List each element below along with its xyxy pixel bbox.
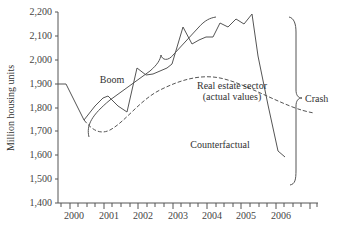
x-tick-label: 2001: [99, 210, 119, 221]
crash-label: Crash: [305, 93, 328, 104]
counterfactual-label: Counterfactual: [190, 139, 250, 150]
chart-canvas: 2,200 2,100 2,000 1,900 1,800 1,700 1,60…: [0, 0, 354, 230]
boom-label: Boom: [100, 74, 125, 85]
crash-brace: [289, 17, 302, 185]
y-tick-label: 1,800: [30, 102, 53, 113]
y-tick-label: 2,200: [30, 6, 53, 17]
y-tick-label: 1,900: [30, 78, 53, 89]
x-tick-label: 2002: [133, 210, 153, 221]
y-tick-labels: 2,200 2,100 2,000 1,900 1,800 1,700 1,60…: [30, 6, 53, 208]
x-tick-label: 2003: [168, 210, 188, 221]
x-tick-labels: 2000 2001 2002 2003 2004 2005 2006: [64, 210, 291, 221]
y-tick-label: 2,000: [30, 54, 53, 65]
actual-values-label-line1: Real estate sector: [197, 80, 268, 91]
actual-values-label-line2: (actual values): [203, 91, 262, 103]
y-tick-label: 1,600: [30, 149, 53, 160]
x-tick-label: 2004: [202, 210, 222, 221]
y-tick-label: 1,400: [30, 197, 53, 208]
y-tick-label: 1,700: [30, 125, 53, 136]
x-tick-label: 2000: [64, 210, 84, 221]
y-tick-label: 1,500: [30, 173, 53, 184]
x-ticks: [61, 203, 317, 209]
x-tick-label: 2006: [271, 210, 291, 221]
y-tick-label: 2,100: [30, 30, 53, 41]
y-axis-title: Million housing units: [5, 65, 16, 151]
x-tick-label: 2005: [236, 210, 256, 221]
